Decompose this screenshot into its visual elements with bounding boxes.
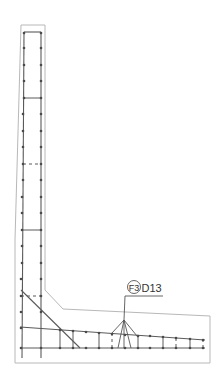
bar-mark-text: F3 xyxy=(129,283,140,293)
bar-size-text: D13 xyxy=(142,282,162,294)
haunch-diagonal-bar xyxy=(21,290,80,348)
rebar-drawing: F3 D13 xyxy=(0,0,223,377)
bar-mark-callout: F3 D13 xyxy=(128,281,162,294)
base-ties xyxy=(60,330,203,348)
